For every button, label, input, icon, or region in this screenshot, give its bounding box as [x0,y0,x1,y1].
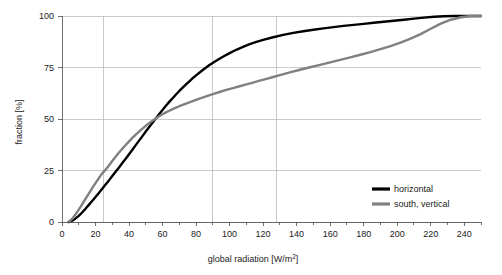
x-axis-title: global radiation [W/m2] [208,253,299,264]
chart-legend: horizontalsouth, vertical [372,184,450,209]
y-tick-label-0: 0 [49,217,54,227]
x-tick-label-80: 80 [191,229,201,239]
x-tick-label-140: 140 [289,229,304,239]
x-tick-label-220: 220 [423,229,438,239]
legend-label-0: horizontal [394,184,433,194]
y-tick-label-75: 75 [44,63,54,73]
x-tick-label-60: 60 [158,229,168,239]
legend-label-1: south, vertical [394,199,450,209]
y-tick-label-100: 100 [39,11,54,21]
cumulative-distribution-chart: 0204060801001201401601802002202400255075… [0,0,502,275]
y-tick-label-25: 25 [44,166,54,176]
x-tick-label-40: 40 [124,229,134,239]
y-axis-title: fraction [%] [14,99,24,144]
x-tick-label-200: 200 [390,229,405,239]
x-tick-label-0: 0 [59,229,64,239]
x-tick-label-120: 120 [256,229,271,239]
x-tick-label-180: 180 [356,229,371,239]
axis-layer [58,16,481,226]
x-tick-label-160: 160 [323,229,338,239]
chart-container: 0204060801001201401601802002202400255075… [0,0,502,275]
x-tick-label-100: 100 [222,229,237,239]
x-tick-label-20: 20 [91,229,101,239]
x-tick-label-240: 240 [457,229,472,239]
y-tick-label-50: 50 [44,114,54,124]
